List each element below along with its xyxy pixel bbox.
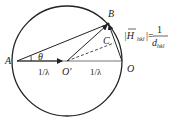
formula-denominator-sub: hkl [157, 43, 165, 49]
diffracted-vector [67, 25, 107, 61]
label-C: C [103, 35, 110, 46]
ewald-diagram: A B C O O' θ 1/λ 1/λ |H hkl |= 1 d hkl [0, 0, 171, 123]
formula: |H hkl |= 1 d hkl [124, 24, 168, 49]
label-radius-left: 1/λ [38, 67, 50, 77]
point-B [106, 22, 109, 25]
label-B: B [108, 8, 114, 19]
line-AB [17, 24, 108, 61]
label-O: O [127, 63, 134, 74]
label-theta: θ [38, 51, 43, 62]
label-O-prime: O' [62, 66, 72, 77]
label-radius-right: 1/λ [90, 67, 102, 77]
reciprocal-vector-H [109, 25, 122, 61]
formula-lhs-sub: hkl [137, 36, 145, 42]
label-A: A [4, 55, 12, 66]
formula-numerator: 1 [157, 24, 162, 35]
formula-lhs: |H [124, 30, 135, 41]
